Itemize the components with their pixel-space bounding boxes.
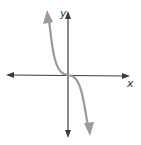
x-axis-label: x	[127, 78, 134, 89]
y-axis-label: y	[60, 8, 67, 19]
function-graph: y x	[0, 0, 141, 145]
x-axis-left-arrow-icon	[6, 72, 14, 78]
curve-up-arrow-icon	[43, 10, 53, 24]
curve-down-arrow-icon	[84, 122, 94, 136]
graph-canvas	[0, 0, 141, 145]
y-axis-down-arrow-icon	[65, 130, 71, 138]
